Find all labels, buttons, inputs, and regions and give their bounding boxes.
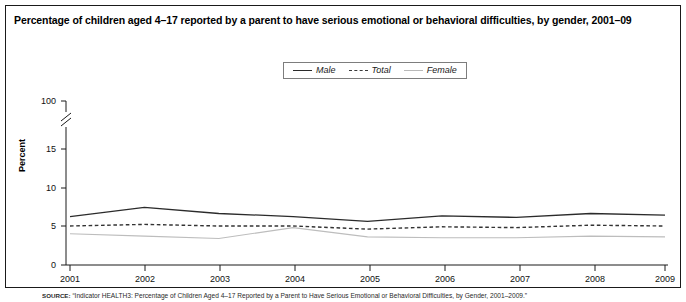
y-tick-label-15: 15 [30, 144, 56, 154]
series-line-female [70, 228, 665, 239]
y-tick-label-100: 100 [30, 96, 56, 106]
series-line-male [70, 207, 665, 221]
x-tick-label-2005: 2005 [350, 274, 390, 284]
x-tick-label-2003: 2003 [200, 274, 240, 284]
y-tick-label-10: 10 [30, 183, 56, 193]
x-tick-label-2001: 2001 [50, 274, 90, 284]
source-text: “Indicator HEALTH3: Percentage of Childr… [72, 292, 527, 299]
plot-area [0, 0, 686, 302]
axis-break-icon [61, 113, 71, 126]
x-axis-ticks [70, 265, 665, 271]
y-tick-label-5: 5 [30, 221, 56, 231]
figure-container: Percentage of children aged 4–17 reporte… [0, 0, 686, 302]
x-tick-label-2006: 2006 [425, 274, 465, 284]
x-tick-label-2007: 2007 [500, 274, 540, 284]
x-tick-label-2009: 2009 [645, 274, 685, 284]
x-tick-label-2008: 2008 [575, 274, 615, 284]
source-note: SOURCE: “Indicator HEALTH3: Percentage o… [42, 292, 682, 300]
series-line-total [70, 224, 665, 229]
x-tick-label-2004: 2004 [275, 274, 315, 284]
y-tick-label-0: 0 [30, 260, 56, 270]
source-lead: SOURCE: [42, 292, 71, 299]
plot-svg [0, 0, 686, 302]
x-tick-label-2002: 2002 [125, 274, 165, 284]
